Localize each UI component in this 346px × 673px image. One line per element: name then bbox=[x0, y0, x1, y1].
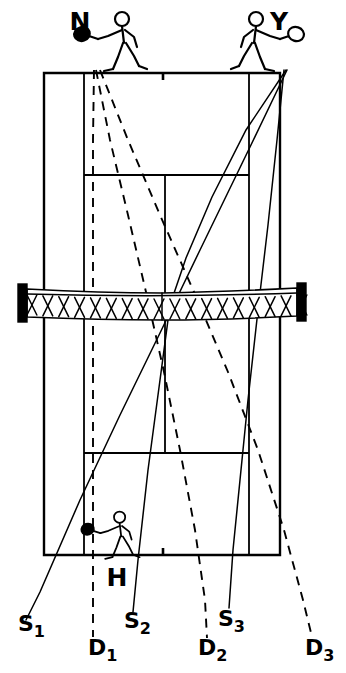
player-arm-front bbox=[100, 526, 119, 533]
trajectory-d1 bbox=[93, 70, 94, 637]
player-arm-front bbox=[98, 30, 122, 39]
trajectory-d2 bbox=[96, 70, 207, 638]
label-base: D bbox=[305, 635, 323, 660]
label-base: D bbox=[88, 635, 106, 660]
player-label-y: Y bbox=[269, 7, 289, 36]
racket-handle bbox=[93, 531, 100, 533]
player-figure-y bbox=[231, 12, 306, 71]
trajectory-labels: S1D1S2D2S3D3 bbox=[18, 606, 334, 665]
player-leg-front bbox=[255, 43, 265, 69]
player-shoe-front bbox=[105, 557, 112, 559]
net-post-left bbox=[18, 284, 27, 322]
label-base: S bbox=[18, 611, 34, 636]
label-subscript: 2 bbox=[216, 646, 227, 665]
player-head bbox=[115, 12, 129, 26]
player-label-n: N bbox=[70, 7, 91, 36]
racket-handle bbox=[89, 36, 98, 39]
player-shoe-front bbox=[265, 69, 274, 71]
racket-head bbox=[286, 25, 306, 43]
tennis-court-diagram: NYH S1D1S2D2S3D3 bbox=[0, 0, 346, 673]
player-head bbox=[114, 512, 125, 523]
player-torso bbox=[122, 26, 124, 43]
label-base: S bbox=[218, 606, 234, 631]
player-shoe-back bbox=[139, 66, 147, 69]
label-subscript: 2 bbox=[140, 619, 151, 638]
trajectory-label-d3: D3 bbox=[305, 635, 334, 665]
trajectory-label-s3: S3 bbox=[218, 606, 245, 636]
label-subscript: 1 bbox=[106, 646, 117, 665]
label-base: D bbox=[198, 635, 216, 660]
player-label-h: H bbox=[107, 563, 128, 592]
diagram-stage: NYH S1D1S2D2S3D3 bbox=[0, 0, 346, 673]
trajectory-label-s2: S2 bbox=[124, 608, 151, 638]
player-torso bbox=[254, 26, 256, 43]
label-subscript: 1 bbox=[34, 622, 45, 641]
player-shoe-back bbox=[231, 66, 239, 69]
player-head bbox=[249, 12, 263, 26]
trajectory-s1 bbox=[26, 70, 287, 620]
player-figure-h bbox=[80, 512, 140, 559]
trajectory-label-d1: D1 bbox=[88, 635, 117, 665]
solid-trajectories bbox=[26, 70, 287, 620]
tennis-net bbox=[18, 283, 307, 322]
label-subscript: 3 bbox=[234, 617, 245, 636]
player-torso bbox=[120, 523, 122, 537]
trajectory-label-d2: D2 bbox=[198, 635, 227, 665]
label-base: S bbox=[124, 608, 140, 633]
player-leg-front bbox=[113, 43, 123, 69]
trajectory-label-s1: S1 bbox=[18, 611, 45, 641]
trajectory-s3 bbox=[229, 70, 284, 608]
net-post-right bbox=[297, 283, 306, 321]
label-subscript: 3 bbox=[323, 646, 334, 665]
player-shoe-front bbox=[104, 69, 113, 71]
